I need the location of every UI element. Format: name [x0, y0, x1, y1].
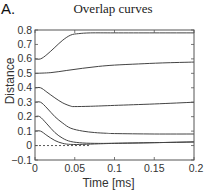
- curve-5: [35, 131, 194, 145]
- y-tick-label: 0.2: [17, 110, 32, 122]
- y-tick-label: 0.1: [17, 125, 32, 137]
- y-tick-label: 0.4: [17, 81, 32, 93]
- y-tick-label: 0: [26, 139, 32, 151]
- y-axis-ticks: −0.100.10.20.30.40.50.60.70.8: [11, 24, 194, 166]
- curve-1: [35, 62, 194, 73]
- y-tick-label: 0.5: [17, 67, 32, 79]
- y-tick-label: 0.8: [17, 24, 32, 36]
- curve-2: [35, 87, 194, 106]
- x-tick-label: 0: [32, 162, 38, 174]
- y-axis-label: Distance: [3, 57, 17, 104]
- x-tick-label: 0.2: [189, 162, 204, 174]
- plot-frame: [35, 30, 194, 160]
- curve-3: [35, 102, 194, 134]
- x-tick-label: 0.15: [144, 162, 165, 174]
- y-tick-label: 0.3: [17, 96, 32, 108]
- x-axis-ticks: 00.050.10.150.2: [32, 30, 203, 174]
- y-tick-label: 0.6: [17, 52, 32, 64]
- data-curves: [35, 33, 194, 145]
- line-chart: 00.050.10.150.2 −0.100.10.20.30.40.50.60…: [0, 0, 204, 193]
- x-tick-label: 0.1: [107, 162, 122, 174]
- y-tick-label: −0.1: [11, 154, 32, 166]
- x-tick-label: 0.05: [65, 162, 86, 174]
- y-tick-label: 0.7: [17, 38, 32, 50]
- x-axis-label: Time [ms]: [82, 176, 134, 190]
- curve-0: [35, 33, 194, 59]
